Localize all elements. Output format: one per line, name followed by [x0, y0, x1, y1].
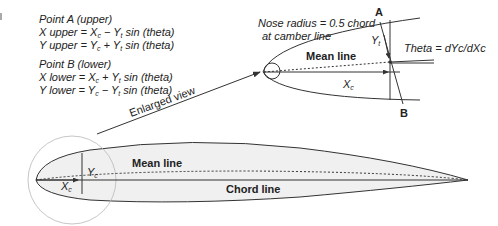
xc-label: Xc: [342, 78, 354, 91]
point-b-label: B: [400, 107, 408, 119]
formula-block: Point A (upper) X upper = Xc − Yt sin (t…: [38, 13, 175, 97]
theta-label: Theta = dYc/dXc: [404, 42, 486, 54]
yt-arrow: [384, 35, 389, 58]
point-a-title: Point A (upper): [39, 13, 113, 25]
nose-radius-note: Nose radius = 0.5 chord: [258, 17, 376, 29]
point-b-x-equation: X lower = Xc + Yt sin (theta): [38, 71, 173, 84]
camber-point: [388, 60, 391, 63]
point-a-x-equation: X upper = Xc − Yt sin (theta): [38, 26, 175, 39]
airfoil: Mean line Chord line Xc Yc: [28, 136, 468, 224]
point-b-title: Point B (lower): [39, 58, 111, 70]
enlarged-lower-surface: [263, 72, 420, 100]
tangent-line: [390, 60, 434, 62]
yt-label: Yt: [371, 34, 381, 47]
enlarged-mean-line: [264, 62, 390, 72]
nose-radius-note-2: at camber line: [262, 30, 331, 42]
point-a-label: A: [375, 6, 383, 18]
chord-line-label: Chord line: [226, 183, 280, 195]
enlarged-mean-line-label: Mean line: [306, 50, 356, 62]
point-b-y-equation: Y lower = Yc − Yt sin (theta): [39, 84, 173, 97]
enlarged-view: Nose radius = 0.5 chord at camber line M…: [258, 6, 486, 119]
airfoil-mean-line-label: Mean line: [132, 157, 182, 169]
airfoil-diagram: Point A (upper) X upper = Xc − Yt sin (t…: [0, 0, 498, 226]
point-a-y-equation: Y upper = Yc + Yt sin (theta): [39, 39, 174, 52]
